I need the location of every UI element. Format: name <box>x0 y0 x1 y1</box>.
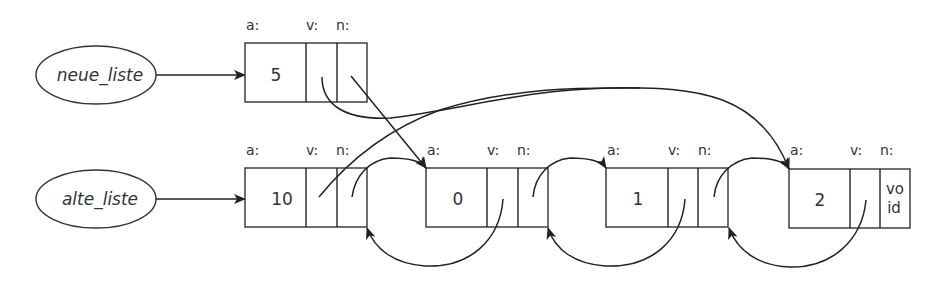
field-label-n: n: <box>336 142 350 158</box>
field-label-n: n: <box>698 142 712 158</box>
field-label-n: n: <box>880 142 894 158</box>
field-label-n: n: <box>517 142 531 158</box>
field-label-a: a: <box>246 142 259 158</box>
field-label-n: n: <box>336 17 350 33</box>
variable-alte-liste: alte_liste <box>36 170 156 228</box>
field-label-v: v: <box>306 142 318 158</box>
void-text-line2: id <box>887 199 901 217</box>
field-label-v: v: <box>487 142 499 158</box>
void-text-line1: vo <box>886 180 904 198</box>
node-5: a: v: n: 5 <box>245 17 367 102</box>
node-value: 5 <box>271 65 282 85</box>
variable-neue-liste: neue_liste <box>36 46 156 104</box>
node-10: a: v: n: 10 <box>245 142 367 227</box>
field-label-a: a: <box>607 142 620 158</box>
variable-label: neue_liste <box>57 65 143 86</box>
node-value: 10 <box>271 189 293 209</box>
node-value: 1 <box>633 189 644 209</box>
field-label-a: a: <box>790 142 803 158</box>
node-1: a: v: n: 1 <box>606 142 728 227</box>
pointer-neu-v-to-node-2 <box>322 77 789 169</box>
node-value: 2 <box>815 190 826 210</box>
field-label-a: a: <box>427 142 440 158</box>
node-0: a: v: n: 0 <box>426 142 548 227</box>
node-value: 0 <box>453 189 464 209</box>
field-label-a: a: <box>246 17 259 33</box>
linked-list-diagram: neue_liste alte_liste a: v: n: 5 a: v: n… <box>0 0 942 287</box>
variable-label: alte_liste <box>62 189 138 210</box>
field-label-v: v: <box>306 17 318 33</box>
field-label-v: v: <box>668 142 680 158</box>
node-2: a: v: n: 2 vo id <box>789 142 910 228</box>
field-label-v: v: <box>850 142 862 158</box>
